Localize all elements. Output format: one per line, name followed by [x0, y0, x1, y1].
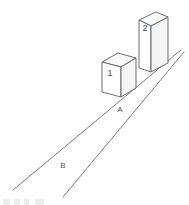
line-drawing-svg: 2 1 A B: [0, 0, 189, 205]
block-2-side-face: [151, 17, 168, 72]
footer-artifact: [3, 199, 55, 205]
figure-canvas: 2 1 A B: [0, 0, 189, 205]
block-2-group: 2: [139, 12, 168, 72]
road-label-b: B: [60, 161, 65, 170]
road-line-upper: [13, 50, 181, 190]
block-1-front-face: [102, 62, 121, 97]
block-1-label: 1: [107, 68, 112, 78]
road-label-a: A: [117, 105, 123, 114]
road-group: [13, 50, 184, 197]
block-1-group: 1: [102, 53, 136, 97]
block-2-label: 2: [142, 23, 147, 33]
